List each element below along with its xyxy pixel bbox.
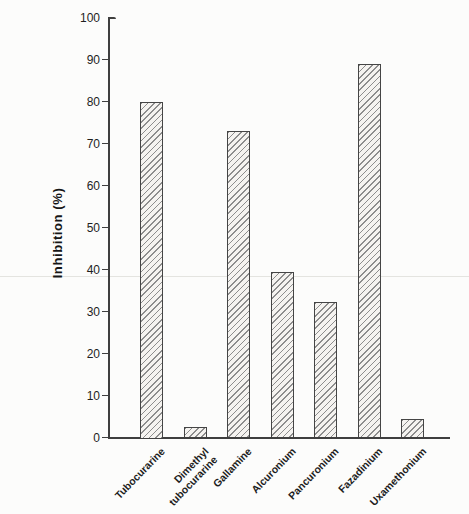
y-tick-label: 10: [58, 390, 100, 402]
y-tick-label: 70: [58, 138, 100, 150]
bar: [358, 64, 381, 437]
bar: [314, 302, 337, 437]
y-tick-label: 30: [58, 306, 100, 318]
y-tick: [102, 353, 108, 354]
y-tick: [102, 437, 108, 438]
y-tick: [102, 59, 108, 60]
bar: [140, 102, 163, 438]
y-tick: [102, 227, 108, 228]
x-category-label: Gallamine: [211, 445, 255, 489]
y-tick-label: 100: [58, 12, 100, 24]
y-tick: [102, 269, 108, 270]
bar-chart: Inhibition (%) 0102030405060708090100 Tu…: [0, 0, 469, 514]
y-axis: [108, 17, 110, 438]
y-tick: [102, 143, 108, 144]
x-category-label: Dimethyl tubocurarine: [157, 445, 219, 508]
bar: [401, 419, 424, 438]
y-tick: [102, 101, 108, 102]
y-tick-label: 60: [58, 180, 100, 192]
bar: [184, 427, 207, 438]
bar: [271, 272, 294, 437]
y-tick: [102, 185, 108, 186]
y-tick-label: 40: [58, 264, 100, 276]
y-tick: [102, 311, 108, 312]
y-tick: [102, 395, 108, 396]
y-tick-label: 20: [58, 348, 100, 360]
y-tick-label: 50: [58, 222, 100, 234]
y-tick-label: 90: [58, 54, 100, 66]
y-tick-label: 80: [58, 96, 100, 108]
y-tick-label: 0: [58, 432, 100, 444]
bar: [227, 131, 250, 438]
y-axis-top-tick: [109, 17, 116, 19]
